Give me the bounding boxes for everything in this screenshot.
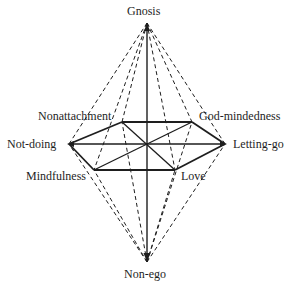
edge-non-ego-not-doing	[69, 144, 147, 262]
label-non-ego: Non-ego	[124, 267, 166, 281]
label-gnosis: Gnosis	[127, 4, 160, 18]
edge-non-ego-love	[147, 170, 175, 262]
hexagon-edge-letting-go-love	[175, 144, 225, 170]
label-not-doing: Not-doing	[7, 137, 56, 151]
label-mindfulness: Mindfulness	[26, 169, 86, 183]
edge-gnosis-god-mindedness	[147, 23, 192, 122]
hexagon-edge-not-doing-nonattachment	[69, 122, 122, 144]
label-love: Love	[181, 169, 206, 183]
label-god-mindedness: God-mindedness	[199, 109, 280, 123]
hexagon-edge-god-mindedness-letting-go	[192, 122, 225, 144]
edge-gnosis-not-doing	[69, 23, 147, 144]
edge-gnosis-letting-go	[147, 23, 225, 144]
label-letting-go: Letting-go	[233, 137, 284, 151]
edge-non-ego-letting-go	[147, 144, 225, 262]
edge-gnosis-nonattachment	[122, 23, 147, 122]
label-nonattachment: Nonattachment	[38, 109, 111, 123]
edge-non-ego-mindfulness	[94, 170, 147, 262]
arrow-up-icon	[144, 23, 150, 31]
arrow-down-icon	[144, 253, 151, 262]
hexagon-edge-mindfulness-not-doing	[69, 144, 94, 170]
solid-edges	[69, 27, 225, 258]
